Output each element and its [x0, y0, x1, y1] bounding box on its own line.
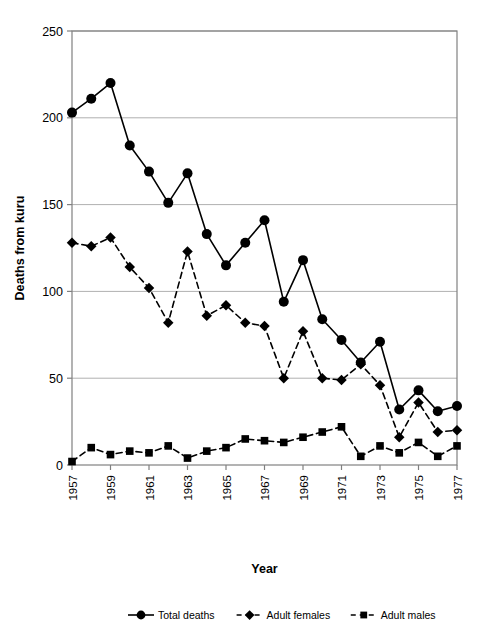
legend-square-marker-2 — [360, 612, 367, 619]
data-point-0-1959 — [106, 78, 116, 88]
data-point-0-1961 — [144, 167, 154, 177]
data-point-2-1972 — [357, 453, 365, 461]
data-point-0-1958 — [86, 94, 96, 104]
data-point-0-1962 — [163, 198, 173, 208]
data-point-0-1964 — [202, 229, 212, 239]
data-point-2-1966 — [241, 435, 249, 443]
legend-item-1[interactable]: Adult females — [237, 609, 331, 621]
data-point-0-1970 — [317, 314, 327, 324]
data-point-2-1975 — [415, 439, 423, 447]
x-axis: 1957195919611963196519671969197119731975… — [67, 465, 464, 501]
data-point-0-1977 — [452, 401, 462, 411]
y-tick-label-150: 150 — [42, 198, 63, 212]
y-tick-label-0: 0 — [56, 459, 63, 473]
data-point-0-1971 — [337, 335, 347, 345]
x-axis-title: Year — [251, 562, 278, 576]
data-point-2-1970 — [318, 428, 326, 436]
data-point-2-1968 — [280, 439, 288, 447]
plot-area-background — [72, 31, 457, 465]
y-tick-label-100: 100 — [42, 285, 63, 299]
legend-label-2: Adult males — [381, 609, 436, 621]
legend-item-0[interactable]: Total deaths — [128, 609, 215, 621]
kuru-deaths-chart: 050100150200250Deaths from kuru195719591… — [0, 0, 482, 639]
data-point-2-1957 — [68, 458, 76, 466]
legend-label-1: Adult females — [267, 609, 331, 621]
data-point-2-1962 — [164, 442, 172, 450]
data-point-2-1977 — [453, 442, 461, 450]
data-point-0-1957 — [67, 108, 77, 118]
data-point-2-1973 — [376, 442, 384, 450]
x-tick-label-1965: 1965 — [221, 475, 233, 501]
data-point-0-1973 — [375, 337, 385, 347]
data-point-0-1974 — [394, 404, 404, 414]
x-tick-label-1967: 1967 — [259, 475, 271, 501]
x-tick-label-1959: 1959 — [105, 475, 117, 501]
x-tick-label-1973: 1973 — [375, 475, 387, 501]
data-point-2-1967 — [261, 437, 269, 445]
data-point-0-1965 — [221, 260, 231, 270]
data-point-0-1968 — [279, 297, 289, 307]
legend-label-0: Total deaths — [158, 609, 215, 621]
y-tick-label-250: 250 — [42, 25, 63, 39]
y-axis: 050100150200250 — [42, 25, 72, 473]
chart-legend: Total deathsAdult femalesAdult males — [128, 609, 436, 621]
data-point-0-1967 — [260, 215, 270, 225]
data-point-2-1958 — [87, 444, 95, 452]
data-point-0-1975 — [414, 385, 424, 395]
y-tick-label-200: 200 — [42, 111, 63, 125]
y-tick-label-50: 50 — [49, 372, 63, 386]
x-tick-label-1961: 1961 — [144, 475, 156, 501]
data-point-2-1976 — [434, 453, 442, 461]
x-tick-label-1957: 1957 — [67, 475, 79, 501]
data-point-2-1963 — [184, 454, 192, 462]
data-point-2-1965 — [222, 444, 230, 452]
legend-item-2[interactable]: Adult males — [351, 609, 436, 621]
x-tick-label-1971: 1971 — [336, 475, 348, 501]
data-point-2-1971 — [338, 423, 346, 431]
data-point-2-1959 — [107, 451, 115, 459]
data-point-2-1974 — [395, 449, 403, 457]
x-tick-label-1969: 1969 — [298, 475, 310, 501]
data-point-2-1964 — [203, 447, 211, 455]
data-point-2-1961 — [145, 449, 153, 457]
legend-circle-marker-0 — [137, 611, 146, 620]
y-axis-title: Deaths from kuru — [13, 195, 27, 300]
data-point-0-1960 — [125, 141, 135, 151]
x-tick-label-1977: 1977 — [452, 475, 464, 501]
data-point-0-1966 — [240, 238, 250, 248]
data-point-2-1960 — [126, 447, 134, 455]
data-point-2-1969 — [299, 433, 307, 441]
data-point-0-1963 — [183, 168, 193, 178]
x-tick-label-1963: 1963 — [182, 475, 194, 501]
x-tick-label-1975: 1975 — [413, 475, 425, 501]
chart-canvas: 050100150200250Deaths from kuru195719591… — [0, 0, 482, 639]
legend-diamond-marker-1 — [245, 610, 255, 620]
data-point-0-1969 — [298, 255, 308, 265]
data-point-0-1976 — [433, 406, 443, 416]
